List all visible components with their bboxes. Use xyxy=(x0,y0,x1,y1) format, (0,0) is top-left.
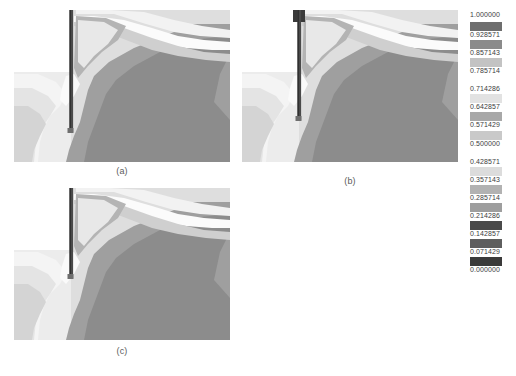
colorbar-tick: 0.642857 xyxy=(470,103,516,110)
panel-b-contour-svg xyxy=(242,10,458,162)
figure-root: (a) xyxy=(0,0,516,376)
colorbar-tick: 0.500000 xyxy=(470,140,516,147)
colorbar-swatch xyxy=(470,112,502,121)
colorbar-entry: 0.500000 xyxy=(470,131,516,149)
colorbar-tick: 0.714286 xyxy=(470,85,516,92)
colorbar-tick: 0.785714 xyxy=(470,67,516,74)
panel-a-plot-area xyxy=(14,10,230,162)
colorbar-entry: 0.642857 xyxy=(470,94,516,112)
colorbar-tick: 0.928571 xyxy=(470,31,516,38)
colorbar-entry: 0.214286 xyxy=(470,203,516,221)
colorbar-swatch xyxy=(470,257,502,266)
colorbar-swatch xyxy=(470,203,502,212)
panel-c-contour-svg xyxy=(14,188,230,340)
colorbar-entry: 0.142857 xyxy=(470,221,516,239)
colorbar-entry: 0.857143 xyxy=(470,40,516,58)
colorbar-swatch xyxy=(470,22,502,31)
contour-panel-c: (c) xyxy=(14,188,230,340)
colorbar-swatch xyxy=(470,76,502,85)
colorbar-tick: 0.142857 xyxy=(470,230,516,237)
colorbar-swatch xyxy=(470,40,502,49)
colorbar-tick: 0.000000 xyxy=(470,266,516,273)
colorbar-entry: 0.357143 xyxy=(470,167,516,185)
colorbar-tick: 0.071429 xyxy=(470,248,516,255)
colorbar-swatch xyxy=(470,239,502,248)
colorbar-swatch xyxy=(470,94,502,103)
colorbar-swatch xyxy=(470,167,502,176)
colorbar-tick: 0.357143 xyxy=(470,176,516,183)
colorbar-swatch xyxy=(470,58,502,67)
colorbar-entry: 0.285714 xyxy=(470,185,516,203)
colorbar-swatch xyxy=(470,185,502,194)
panel-b-label: (b) xyxy=(242,176,458,186)
panel-a-contour-svg xyxy=(14,10,230,162)
colorbar-swatch xyxy=(470,149,502,158)
contour-panel-b: (b) xyxy=(242,10,458,162)
colorbar-tick: 0.214286 xyxy=(470,212,516,219)
colorbar-entry: 0.571429 xyxy=(470,112,516,130)
colorbar-tick: 0.428571 xyxy=(470,158,516,165)
colorbar-entry: 0.714286 xyxy=(470,76,516,94)
clipped-caption xyxy=(6,368,226,376)
colorbar-entry: 0.928571 xyxy=(470,22,516,40)
panel-c-plot-area xyxy=(14,188,230,340)
panel-c-label: (c) xyxy=(14,346,230,356)
colorbar-tick: 0.857143 xyxy=(470,49,516,56)
colorbar-entry: 0.428571 xyxy=(470,149,516,167)
colorbar-entry: 0.000000 xyxy=(470,257,516,275)
panel-a-label: (a) xyxy=(14,166,230,176)
panel-b-plot-area xyxy=(242,10,458,162)
colorbar-tick: 0.285714 xyxy=(470,194,516,201)
colorbar-tick: 0.571429 xyxy=(470,121,516,128)
contour-level-legend: 1.000000 0.928571 0.857143 0.785714 0.71… xyxy=(470,12,516,288)
colorbar-entry: 0.071429 xyxy=(470,239,516,257)
colorbar-swatch xyxy=(470,221,502,230)
colorbar-tick-max: 1.000000 xyxy=(470,11,500,18)
colorbar-entry: 0.785714 xyxy=(470,58,516,76)
contour-panel-a: (a) xyxy=(14,10,230,162)
colorbar-swatch xyxy=(470,131,502,140)
